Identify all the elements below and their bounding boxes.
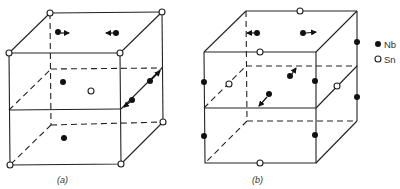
nb-atom — [312, 132, 318, 138]
sn-atom — [7, 162, 13, 168]
arrow-icon — [292, 68, 296, 74]
edge — [204, 11, 246, 52]
sn-atom — [47, 10, 53, 16]
nb-atom — [113, 30, 119, 36]
nb-atom — [55, 29, 61, 35]
mid-plane-hidden-edge — [9, 69, 51, 110]
hidden-edge — [205, 121, 247, 163]
nb-atom — [354, 94, 360, 100]
arrow-icon — [152, 71, 160, 79]
sn-atom — [118, 161, 124, 167]
nb-atom — [201, 79, 207, 85]
mid-plane-edge — [9, 109, 121, 110]
sn-atom — [160, 119, 166, 125]
edge — [162, 12, 163, 122]
nb-atom — [354, 39, 360, 45]
nb-atom — [266, 91, 272, 97]
mid-plane-hidden-edge — [204, 66, 246, 108]
sn-atom — [88, 88, 94, 94]
sn-atom — [257, 160, 263, 166]
sn-atom — [159, 9, 165, 15]
cube-b: (b) — [201, 8, 360, 185]
legend-label-nb: Nb — [384, 39, 396, 50]
panel-label-b: (b) — [252, 175, 263, 185]
nb-atom — [312, 78, 318, 84]
edge — [120, 12, 162, 53]
sn-legend-icon — [375, 56, 381, 62]
legend-label-sn: Sn — [384, 54, 396, 65]
edge — [316, 11, 357, 52]
hidden-edge — [50, 13, 51, 125]
sn-atom — [297, 8, 303, 14]
nb-legend-icon — [375, 41, 381, 47]
sn-atom — [334, 83, 340, 89]
edge — [9, 13, 50, 53]
nb-atom — [254, 30, 260, 36]
hidden-edge — [10, 125, 51, 165]
sn-atom — [6, 50, 12, 56]
sn-atom — [117, 50, 123, 56]
nb-atom — [300, 30, 306, 36]
mid-plane-edge — [121, 68, 162, 109]
panel-label-a: (a) — [57, 175, 68, 185]
nb-atom — [201, 133, 207, 139]
edge — [316, 121, 357, 163]
edge — [50, 12, 162, 13]
arrow-icon — [259, 97, 267, 106]
sn-atom — [226, 81, 232, 87]
hidden-edge — [51, 122, 163, 125]
nb3sn-crystal-structure-diagram: (a) (b) — [0, 0, 400, 189]
arrow-icon — [306, 32, 316, 33]
nb-atom — [61, 135, 67, 141]
cube-a: (a) — [6, 9, 166, 185]
mid-plane-hidden-edge — [51, 68, 162, 69]
edge — [121, 122, 163, 164]
legend: Nb Sn — [375, 39, 396, 65]
nb-atom — [60, 79, 66, 85]
sn-atom — [257, 49, 263, 55]
